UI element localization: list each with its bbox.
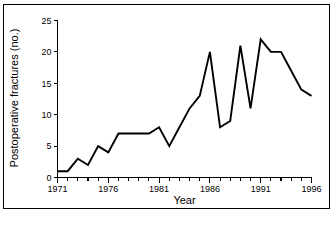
y-tick-label: 15 — [41, 79, 51, 89]
figure-container: 0510152025197119761981198619911996 Posto… — [0, 0, 333, 232]
plot-area: 0510152025197119761981198619911996 — [41, 16, 321, 194]
y-tick-label: 10 — [41, 110, 51, 120]
y-axis-title-text: Postoperative fractures (no.) — [8, 29, 20, 168]
y-axis-title: Postoperative fractures (no.) — [6, 18, 22, 178]
y-tick-label: 5 — [46, 141, 51, 151]
y-tick-label: 20 — [41, 47, 51, 57]
y-tick-label: 25 — [41, 16, 51, 26]
x-axis-title: Year — [57, 190, 312, 208]
x-axis-title-text: Year — [173, 194, 195, 206]
y-tick-label: 0 — [46, 173, 51, 183]
data-series-line — [58, 39, 312, 171]
